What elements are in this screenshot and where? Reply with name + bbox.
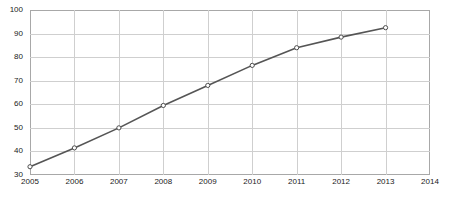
y-tick-label: 50 [0, 124, 23, 132]
plot-area [30, 10, 430, 175]
y-tick-label: 40 [0, 147, 23, 155]
x-tick-label: 2008 [143, 178, 183, 186]
x-tick-label: 2007 [99, 178, 139, 186]
h-gridline [30, 128, 430, 129]
v-gridline [74, 10, 75, 175]
v-gridline [341, 10, 342, 175]
v-gridline [297, 10, 298, 175]
y-tick-label: 70 [0, 77, 23, 85]
y-tick-label: 90 [0, 30, 23, 38]
v-gridline [208, 10, 209, 175]
line-chart: 30405060708090100 2005200620072008200920… [0, 0, 457, 198]
x-tick-label: 2013 [366, 178, 406, 186]
x-tick-label: 2006 [54, 178, 94, 186]
x-tick-label: 2012 [321, 178, 361, 186]
x-tick-label: 2009 [188, 178, 228, 186]
y-tick-label: 100 [0, 6, 23, 14]
x-tick-label: 2011 [277, 178, 317, 186]
h-gridline [30, 104, 430, 105]
h-gridline [30, 34, 430, 35]
y-tick-label: 60 [0, 100, 23, 108]
v-gridline [163, 10, 164, 175]
y-tick-label: 80 [0, 53, 23, 61]
h-gridline [30, 57, 430, 58]
x-tick-label: 2014 [410, 178, 450, 186]
v-gridline [386, 10, 387, 175]
x-tick-label: 2005 [10, 178, 50, 186]
h-gridline [30, 151, 430, 152]
v-gridline [252, 10, 253, 175]
v-gridline [119, 10, 120, 175]
h-gridline [30, 81, 430, 82]
x-tick-label: 2010 [232, 178, 272, 186]
